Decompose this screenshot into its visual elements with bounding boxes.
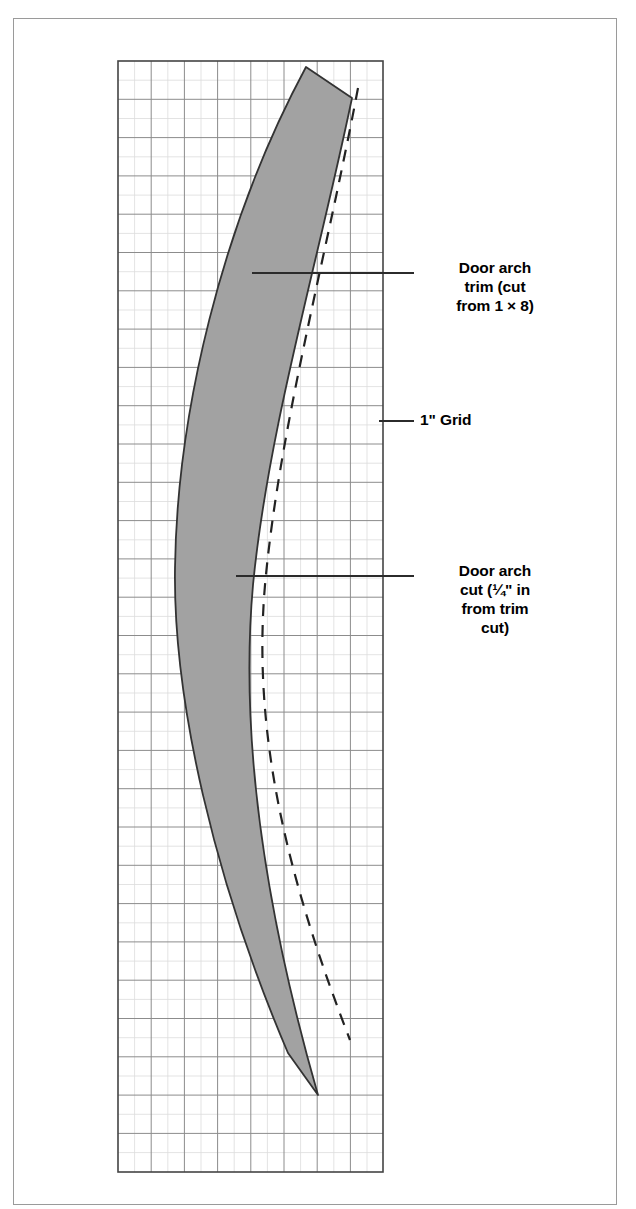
callout-cut-line-4: cut) — [420, 618, 570, 637]
callout-trim-line-1: Door arch — [420, 258, 570, 277]
callout-label-door-arch-cut: Door arch cut (¼" in from trim cut) — [420, 561, 570, 637]
callout-trim-line-3: from 1 × 8) — [420, 296, 570, 315]
diagram-page: Door arch trim (cut from 1 × 8) 1" Grid … — [0, 0, 636, 1209]
callout-cut-line-2: cut (¼" in — [420, 580, 570, 599]
callout-grid-line-1: 1" Grid — [420, 410, 570, 429]
callout-label-door-arch-trim: Door arch trim (cut from 1 × 8) — [420, 258, 570, 315]
callout-cut-line-3: from trim — [420, 599, 570, 618]
callout-cut-line-1: Door arch — [420, 561, 570, 580]
door-arch-trim-band — [175, 67, 352, 1095]
callout-label-grid: 1" Grid — [420, 410, 570, 429]
callout-trim-line-2: trim (cut — [420, 277, 570, 296]
